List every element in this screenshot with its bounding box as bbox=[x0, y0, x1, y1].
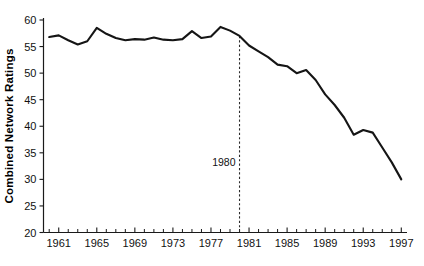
y-tick-label-45: 45 bbox=[24, 94, 36, 106]
x-tick-label-1993: 1993 bbox=[351, 237, 375, 249]
y-tick-label-35: 35 bbox=[24, 147, 36, 159]
y-tick-label-60: 60 bbox=[24, 14, 36, 26]
x-tick-label-1989: 1989 bbox=[313, 237, 337, 249]
x-tick-label-1961: 1961 bbox=[46, 237, 70, 249]
y-tick-label-25: 25 bbox=[24, 200, 36, 212]
y-axis-tick-labels: 202530354045505560 bbox=[24, 14, 36, 239]
y-tick-label-55: 55 bbox=[24, 41, 36, 53]
y-axis-title: Combined Network Ratings bbox=[3, 49, 15, 204]
year-1980-marker-label: 1980 bbox=[212, 156, 236, 168]
chart-container: 202530354045505560 196119651969197319771… bbox=[0, 0, 424, 266]
x-tick-label-1969: 1969 bbox=[123, 237, 147, 249]
y-tick-label-40: 40 bbox=[24, 120, 36, 132]
y-tick-label-20: 20 bbox=[24, 227, 36, 239]
chart-background bbox=[0, 0, 424, 266]
y-tick-label-30: 30 bbox=[24, 173, 36, 185]
x-tick-label-1985: 1985 bbox=[275, 237, 299, 249]
y-tick-label-50: 50 bbox=[24, 67, 36, 79]
combined-network-ratings-line-chart: 202530354045505560 196119651969197319771… bbox=[0, 0, 424, 266]
x-tick-label-1997: 1997 bbox=[389, 237, 413, 249]
x-tick-label-1973: 1973 bbox=[161, 237, 185, 249]
x-tick-label-1981: 1981 bbox=[237, 237, 261, 249]
x-tick-label-1977: 1977 bbox=[199, 237, 223, 249]
x-tick-label-1965: 1965 bbox=[85, 237, 109, 249]
